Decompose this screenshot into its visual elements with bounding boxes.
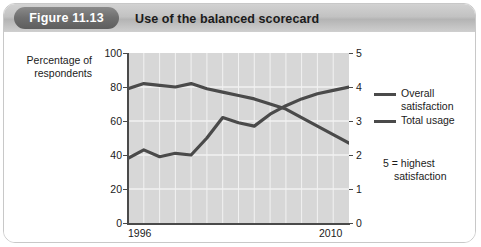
legend-item-total-usage: Total usage [374, 114, 476, 127]
y2-tick-mark [349, 121, 353, 122]
y-tick-mark [123, 189, 127, 190]
x-axis-line [127, 223, 350, 225]
y-axis-title-line1: Percentage of [27, 54, 92, 66]
y2-tick-label: 1 [356, 184, 370, 194]
y2-tick-label: 5 [356, 48, 370, 58]
legend-swatch-icon [374, 93, 396, 96]
y-tick-mark [123, 87, 127, 88]
legend-label-line1: Total usage [401, 114, 476, 127]
y2-tick-mark [349, 53, 353, 54]
y-axis-title: Percentage of respondents [12, 54, 92, 79]
legend-note-line1: 5 = highest [383, 157, 435, 169]
plot-area [128, 53, 349, 223]
chart-body: Percentage of respondents [4, 32, 475, 243]
y-tick-label: 100 [92, 48, 122, 58]
y-axis-title-line2: respondents [34, 67, 92, 79]
gridlines-vertical [144, 53, 333, 223]
legend-label-line1: Overall [401, 87, 476, 100]
legend-note-line2: satisfaction [383, 170, 476, 183]
y2-tick-mark [349, 155, 353, 156]
y2-tick-label: 4 [356, 82, 370, 92]
y2-tick-mark [349, 223, 353, 224]
figure-title: Use of the balanced scorecard [135, 8, 319, 30]
y2-tick-label: 0 [356, 218, 370, 228]
y-tick-label: 80 [92, 82, 122, 92]
y-tick-mark [123, 155, 127, 156]
y-tick-label: 60 [92, 116, 122, 126]
chart-legend: Overall satisfaction Total usage [374, 87, 476, 129]
y2-tick-label: 3 [356, 116, 370, 126]
legend-note: 5 = highest satisfaction [383, 157, 476, 182]
y-tick-mark [123, 223, 127, 224]
y2-tick-label: 2 [356, 150, 370, 160]
y-tick-mark [123, 53, 127, 54]
plot-svg [128, 53, 349, 223]
y2-tick-mark [349, 87, 353, 88]
y-tick-label: 20 [92, 184, 122, 194]
x-tick-label-end: 2010 [319, 227, 342, 239]
y-tick-label: 40 [92, 150, 122, 160]
legend-item-overall-satisfaction: Overall satisfaction [374, 87, 476, 112]
y2-tick-mark [349, 189, 353, 190]
figure-header: Figure 11.13 Use of the balanced scoreca… [4, 4, 475, 32]
figure-card: Figure 11.13 Use of the balanced scoreca… [3, 3, 476, 243]
y-tick-label: 0 [92, 218, 122, 228]
figure-number-badge: Figure 11.13 [14, 7, 119, 29]
legend-swatch-icon [374, 120, 396, 123]
y-tick-mark [123, 121, 127, 122]
legend-label-line2: satisfaction [401, 100, 476, 113]
x-tick-label-start: 1996 [128, 227, 151, 239]
y-axis-line [127, 53, 129, 224]
